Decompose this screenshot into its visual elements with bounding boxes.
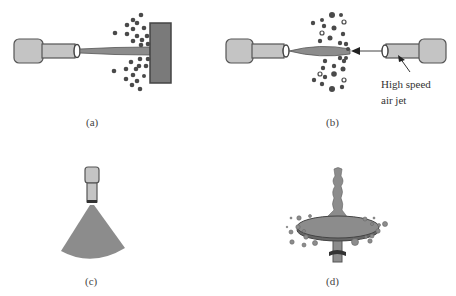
nozzle-icon	[14, 39, 80, 63]
shaft	[333, 238, 342, 262]
annotation-air-jet: air jet	[381, 94, 406, 106]
panel-d: (d)	[286, 168, 387, 289]
impact-plate	[150, 23, 171, 83]
panel-label-c: (c)	[85, 275, 98, 288]
panel-c: (c)	[61, 167, 125, 288]
fan-spray	[61, 205, 125, 259]
annotation-high-speed: High speed	[381, 78, 431, 90]
panel-b: High speed air jet (b)	[226, 12, 446, 129]
panel-label-b: (b)	[326, 116, 339, 129]
liquid-jet	[289, 46, 350, 55]
nozzle-icon	[226, 39, 289, 63]
liquid-jet	[80, 47, 150, 55]
air-jet-arrow	[351, 47, 382, 55]
air-nozzle-icon	[382, 39, 446, 63]
panel-a: (a)	[14, 13, 171, 129]
panel-label-d: (d)	[326, 275, 339, 288]
panel-label-a: (a)	[86, 116, 99, 129]
nozzle-icon	[85, 167, 99, 203]
liquid-stream	[326, 168, 348, 219]
atomization-methods-figure: (a)	[0, 0, 456, 296]
